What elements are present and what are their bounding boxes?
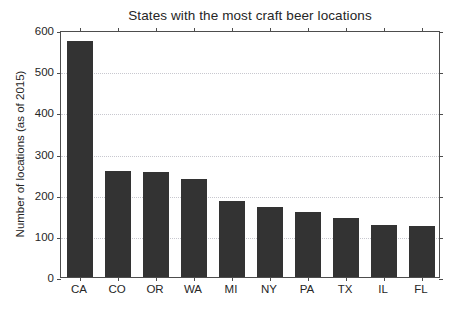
x-tick-mark	[346, 28, 347, 32]
x-tick-mark	[384, 28, 385, 32]
bar	[67, 41, 94, 277]
gridline	[61, 156, 439, 157]
x-tick-mark	[270, 277, 271, 281]
bar	[371, 225, 398, 277]
bar	[105, 171, 132, 277]
bar	[143, 172, 170, 277]
x-tick-mark	[346, 277, 347, 281]
chart-title: States with the most craft beer location…	[60, 8, 440, 23]
x-tick-mark	[422, 277, 423, 281]
bar	[409, 226, 436, 277]
x-tick-mark	[118, 277, 119, 281]
x-tick-mark	[156, 277, 157, 281]
y-tick-mark	[57, 114, 61, 115]
x-tick-mark	[118, 28, 119, 32]
x-tick-label: PA	[287, 283, 327, 295]
y-tick-mark	[439, 32, 443, 33]
y-tick-mark	[439, 238, 443, 239]
gridline	[61, 114, 439, 115]
y-tick-label: 600	[20, 25, 54, 37]
x-tick-mark	[80, 28, 81, 32]
x-tick-label: WA	[173, 283, 213, 295]
y-tick-label: 100	[20, 231, 54, 243]
y-tick-mark	[57, 32, 61, 33]
x-tick-mark	[232, 28, 233, 32]
bar	[333, 218, 360, 277]
y-tick-label: 500	[20, 66, 54, 78]
y-tick-mark	[57, 279, 61, 280]
plot-area	[60, 31, 440, 278]
x-tick-label: NY	[249, 283, 289, 295]
bar	[219, 201, 246, 277]
x-tick-mark	[232, 277, 233, 281]
x-tick-mark	[308, 28, 309, 32]
y-tick-mark	[439, 114, 443, 115]
y-tick-label: 300	[20, 149, 54, 161]
y-tick-label: 400	[20, 107, 54, 119]
x-tick-label: IL	[363, 283, 403, 295]
x-tick-mark	[194, 28, 195, 32]
x-tick-mark	[80, 277, 81, 281]
x-tick-label: CO	[97, 283, 137, 295]
x-tick-mark	[308, 277, 309, 281]
x-tick-mark	[156, 28, 157, 32]
x-tick-label: OR	[135, 283, 175, 295]
y-tick-label: 200	[20, 190, 54, 202]
gridline	[61, 73, 439, 74]
chart-screenshot: States with the most craft beer location…	[0, 0, 457, 313]
y-tick-mark	[57, 238, 61, 239]
y-tick-mark	[439, 279, 443, 280]
bar	[181, 179, 208, 277]
x-tick-label: MI	[211, 283, 251, 295]
y-tick-mark	[57, 73, 61, 74]
y-tick-mark	[439, 73, 443, 74]
x-tick-label: CA	[59, 283, 99, 295]
y-tick-label: 0	[20, 272, 54, 284]
y-tick-mark	[439, 197, 443, 198]
y-tick-mark	[57, 156, 61, 157]
bar	[257, 207, 284, 277]
x-tick-mark	[384, 277, 385, 281]
x-tick-mark	[194, 277, 195, 281]
y-tick-mark	[439, 156, 443, 157]
x-tick-label: FL	[401, 283, 441, 295]
y-tick-mark	[57, 197, 61, 198]
bar	[295, 212, 322, 277]
x-tick-mark	[270, 28, 271, 32]
x-tick-label: TX	[325, 283, 365, 295]
x-tick-mark	[422, 28, 423, 32]
